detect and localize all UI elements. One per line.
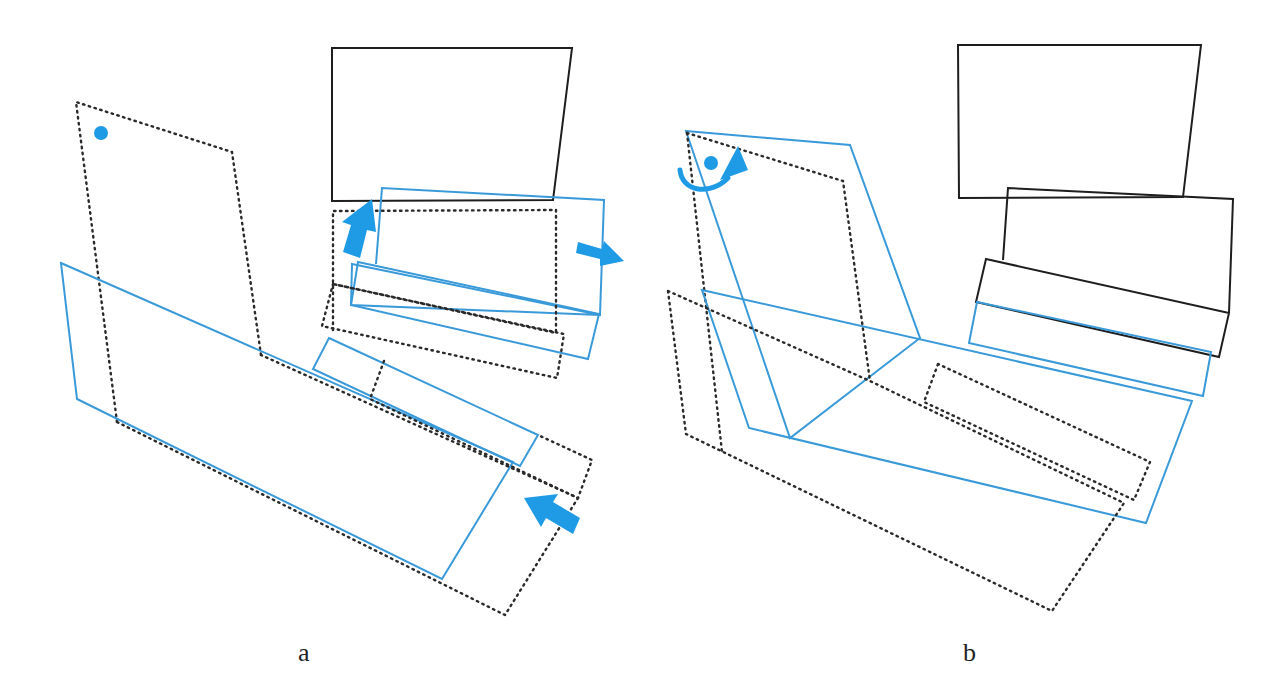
dotted-strip-a — [370, 361, 592, 498]
pivot-dot-a — [94, 126, 108, 140]
pivot-dot-b — [704, 156, 718, 170]
diagram-figure: a b — [0, 0, 1281, 684]
right-arrow-icon — [576, 241, 624, 266]
up-left-arrow-icon — [524, 494, 580, 534]
panel-b: b — [668, 45, 1233, 667]
dotted-lower-box-a — [117, 355, 578, 615]
black-strip-b — [976, 259, 1229, 357]
blue-tall-sheet-b — [686, 131, 920, 438]
black-top-box-a — [332, 48, 572, 201]
blue-strip-b — [969, 302, 1211, 396]
black-top-box-b — [958, 45, 1201, 198]
dotted-lower-box-b — [668, 291, 1124, 611]
panel-label-a: a — [298, 638, 310, 667]
panel-label-b: b — [963, 638, 976, 667]
panel-a: a — [61, 48, 624, 667]
blue-thin-strip-a — [313, 338, 538, 466]
dotted-tall-sheet-a — [76, 102, 261, 422]
blue-large-sheet-b — [702, 290, 1192, 523]
up-arrow-icon — [342, 199, 376, 258]
black-second-box-b — [1003, 188, 1233, 313]
blue-large-sheet-a — [61, 263, 513, 579]
dotted-tall-sheet-b — [687, 133, 870, 381]
